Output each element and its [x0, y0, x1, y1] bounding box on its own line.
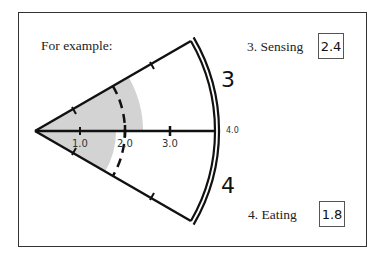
segment-number-3: 3: [221, 69, 235, 91]
segment-number-4: 4: [221, 175, 235, 197]
axis-label-3: 3.0: [162, 139, 178, 149]
sensing-value: 2.4: [321, 39, 342, 54]
eating-label: 4. Eating: [248, 207, 297, 223]
sensing-label: 3. Sensing: [247, 39, 303, 55]
axis-label-4: 4.0: [226, 127, 239, 135]
eating-value: 1.8: [322, 207, 343, 222]
axis-label-2: 2.0: [117, 139, 133, 149]
eating-value-box[interactable]: 1.8: [319, 201, 345, 227]
sensing-value-box[interactable]: 2.4: [318, 33, 344, 59]
axis-label-1: 1.0: [72, 139, 88, 149]
